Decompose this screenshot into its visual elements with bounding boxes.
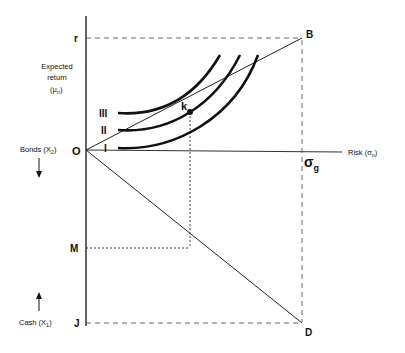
label-risk: Risk (σn): [348, 148, 378, 158]
indifference-curve-i: [118, 55, 258, 148]
portfolio-diagram: r B O M J D k σg III II I Expected retur…: [0, 0, 405, 353]
indifference-curve-iii: [118, 55, 220, 113]
label-expected: Expected: [41, 62, 72, 71]
label-o: O: [72, 145, 81, 157]
point-k-marker: [187, 109, 193, 115]
ob-line: [86, 38, 302, 150]
label-sigma-g: σg: [304, 154, 319, 173]
label-curve-i: I: [104, 143, 107, 154]
label-curve-iii: III: [99, 108, 108, 119]
label-return: return: [47, 73, 67, 82]
label-j: J: [74, 318, 80, 329]
risk-axis: [86, 150, 342, 152]
label-bonds: Bonds (X2): [20, 145, 57, 155]
label-mu-n: (μn): [50, 85, 63, 95]
label-r: r: [74, 33, 78, 44]
label-curve-ii: II: [101, 125, 107, 136]
arrow-up-icon: [36, 292, 42, 311]
label-m: M: [70, 243, 78, 254]
label-k: k: [181, 100, 188, 112]
label-d: D: [305, 327, 312, 338]
label-cash: Cash (X1): [19, 318, 52, 328]
label-b: B: [306, 29, 313, 40]
indifference-curve-ii: [118, 55, 240, 130]
od-line: [86, 150, 302, 323]
arrow-down-icon: [36, 158, 42, 178]
